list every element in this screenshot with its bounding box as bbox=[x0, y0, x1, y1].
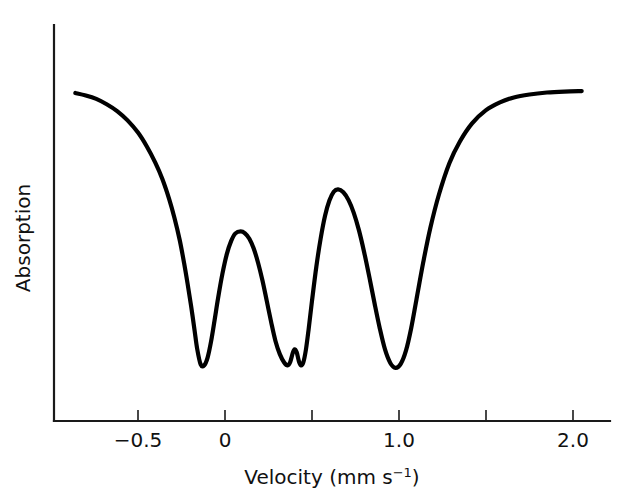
x-axis-tick-label: 1.0 bbox=[383, 428, 415, 452]
x-axis-tick-label: 2.0 bbox=[557, 428, 589, 452]
y-axis-title: Absorption bbox=[11, 184, 35, 292]
mossbauer-absorption-chart: −0.501.02.0 Velocity (mm s−1) Absorption bbox=[0, 0, 639, 499]
x-axis-tick-label: 0 bbox=[219, 428, 232, 452]
x-axis-tick-label: −0.5 bbox=[114, 428, 163, 452]
